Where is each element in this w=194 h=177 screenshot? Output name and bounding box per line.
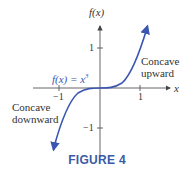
annotation-upward-line1: Concave bbox=[141, 55, 179, 67]
tick-label-x-pos1: 1 bbox=[138, 91, 143, 103]
curve-arrow-bottom bbox=[54, 145, 55, 150]
x-axis-label: x bbox=[174, 82, 179, 94]
y-axis-label: f(x) bbox=[89, 6, 104, 18]
curve-arrow-top bbox=[146, 26, 148, 31]
annotation-downward-line2: downward bbox=[12, 113, 58, 125]
figure-caption: FIGURE 4 bbox=[0, 153, 194, 167]
annotation-concave-upward: Concave upward bbox=[141, 55, 179, 79]
tick-label-y-pos1: 1 bbox=[89, 42, 94, 54]
cubic-curve bbox=[54, 28, 147, 147]
function-label: f(x) = x3 bbox=[52, 70, 89, 85]
annotation-concave-downward: Concave downward bbox=[12, 101, 58, 125]
chart-canvas bbox=[0, 0, 194, 177]
annotation-downward-line1: Concave bbox=[12, 101, 58, 113]
annotation-upward-line2: upward bbox=[141, 67, 179, 79]
function-label-text: f(x) = x bbox=[52, 73, 85, 85]
tick-label-y-neg1: −1 bbox=[83, 122, 94, 134]
function-label-exponent: 3 bbox=[85, 72, 89, 80]
